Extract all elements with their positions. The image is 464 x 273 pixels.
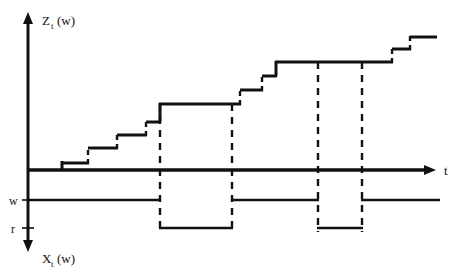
labels-group: Z t (w) X t (w) t w r — [9, 13, 448, 269]
upper-step-function-group — [62, 37, 437, 170]
lower-step-function-group — [28, 200, 440, 228]
figure-container: Z t (w) X t (w) t w r — [0, 0, 464, 273]
level-label-w: w — [9, 194, 18, 208]
x-down-axis-label-arg: (w) — [57, 251, 75, 266]
y-axis-label-subscript: t — [51, 21, 54, 31]
time-axis-arrowhead — [424, 165, 436, 175]
vertical-axis-up-arrowhead — [23, 12, 33, 24]
axes-group — [23, 12, 436, 252]
vertical-axis-down-arrowhead — [23, 240, 33, 252]
y-axis-label-main: Z — [42, 13, 50, 28]
y-axis-label-arg: (w) — [57, 13, 75, 28]
x-down-axis-label-subscript: t — [51, 259, 54, 269]
step-function-diagram: Z t (w) X t (w) t w r — [0, 0, 464, 273]
time-axis-label: t — [444, 163, 448, 178]
level-label-r: r — [11, 222, 15, 236]
